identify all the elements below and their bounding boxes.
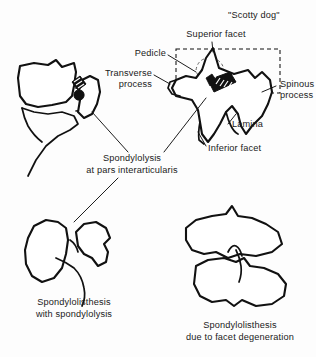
label-spondylolysis-line2: at pars interarticularis — [60, 165, 204, 176]
lateral-vertebral-body-outline — [18, 60, 76, 107]
medical-illustration-figure: "Scotty dog" Superior facet Pedicle Tran… — [0, 0, 316, 357]
lower-left-drawing — [25, 220, 110, 306]
lower-vertebra-facet-deg-outline — [194, 258, 286, 306]
label-spondylolisthesis-lysis-line2: with spondylolysis — [12, 309, 136, 320]
label-inferior-facet: Inferior facet — [208, 143, 261, 154]
leader-pedicle — [168, 55, 196, 72]
label-transverse-process-line2: process — [88, 79, 152, 90]
label-spondylolysis-line1: Spondylolysis — [84, 153, 180, 164]
upper-vertebra-facet-deg-outline — [186, 206, 282, 258]
label-spondylolisthesis-facet-line1: Spondylolisthesis — [166, 320, 314, 331]
leader-transverse-process — [154, 75, 170, 84]
lower-left-posterior-element-outline — [76, 222, 110, 266]
label-transverse-process-line1: Transverse — [88, 68, 152, 79]
label-spondylolisthesis-lysis-line1: Spondylolisthesis — [12, 297, 136, 308]
lower-right-drawing — [186, 206, 286, 306]
leader-spondylolysis-to-lateral — [92, 112, 128, 152]
label-lamina: Lamina — [232, 119, 263, 130]
leader-spondylolysis-to-lower-left — [74, 178, 118, 222]
label-spondylolisthesis-facet-line2: due to facet degeneration — [166, 332, 314, 343]
label-spinous-process-line1: Spinous — [280, 79, 314, 90]
label-scotty-dog: "Scotty dog" — [228, 10, 280, 21]
label-spinous-process-line2: process — [280, 90, 313, 101]
label-superior-facet: Superior facet — [174, 29, 258, 40]
slipped-vertebral-body-outline — [25, 220, 68, 282]
lateral-facet-marker — [74, 90, 84, 100]
scotty-dog-drawing — [168, 48, 280, 144]
label-pedicle: Pedicle — [108, 48, 166, 59]
